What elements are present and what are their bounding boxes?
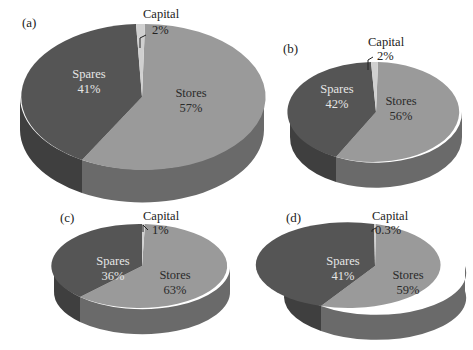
pie-d-spares-name: Spares (318, 254, 368, 269)
pie-d-capital-pct: 0.3% (375, 224, 401, 237)
panel-d-tag: (d) (286, 210, 301, 226)
pie-a (20, 24, 266, 202)
pie-d-capital-name: Capital (372, 210, 408, 223)
pie-a-spares-pct: 41% (64, 82, 114, 97)
pie-a-spares-name: Spares (64, 67, 114, 82)
pie-a-stores-pct: 57% (166, 101, 216, 116)
pie-b (287, 57, 462, 188)
pie-d-stores-name: Stores (383, 268, 433, 283)
pie-a-stores-label: Stores 57% (166, 86, 216, 116)
pie-b-stores-label: Stores 56% (376, 94, 426, 124)
pie-c (51, 224, 230, 334)
pie-d-spares-label: Spares 41% (318, 254, 368, 284)
pie-c-capital-name: Capital (143, 210, 179, 223)
panel-b-tag: (b) (283, 41, 298, 57)
pie-c-stores-name: Stores (150, 268, 200, 283)
pie-a-spares-label: Spares 41% (64, 67, 114, 97)
pie-d-stores-label: Stores 59% (383, 268, 433, 298)
pie-b-stores-pct: 56% (376, 109, 426, 124)
pie-b-spares-pct: 42% (312, 97, 362, 112)
pie-d-spares-pct: 41% (318, 269, 368, 284)
pie-b-capital-pct: 2% (377, 50, 394, 63)
pie-a-capital-name: Capital (143, 8, 179, 21)
panel-a-tag: (a) (22, 15, 36, 31)
pie-c-spares-pct: 36% (88, 269, 138, 284)
pie-c-spares-label: Spares 36% (88, 254, 138, 284)
pie-c-stores-label: Stores 63% (150, 268, 200, 298)
pie-a-stores-name: Stores (166, 86, 216, 101)
pie-c-capital-pct: 1% (152, 224, 169, 237)
pie-b-spares-name: Spares (312, 82, 362, 97)
pie-b-stores-name: Stores (376, 94, 426, 109)
pie-c-spares-name: Spares (88, 254, 138, 269)
pie-b-spares-label: Spares 42% (312, 82, 362, 112)
pie-c-stores-pct: 63% (150, 283, 200, 298)
pie-a-capital-pct: 2% (152, 24, 169, 37)
pie-d-stores-pct: 59% (383, 283, 433, 298)
panel-c-tag: (c) (60, 210, 74, 226)
pie-b-capital-name: Capital (368, 36, 404, 49)
